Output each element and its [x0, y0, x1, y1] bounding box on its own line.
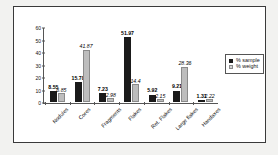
bar-value-label: 28.36 — [178, 61, 191, 66]
bar-weight: 41.87 — [83, 50, 90, 102]
bar-weight: 2.98 — [107, 98, 114, 102]
bar-value-label: 2.22 — [205, 94, 215, 99]
bar-weight: 28.36 — [181, 67, 188, 102]
x-axis-label-cell: Large flakes — [168, 106, 193, 150]
bar-weight: 14.4 — [132, 84, 139, 102]
x-axis-label-cell: Cores — [68, 106, 93, 150]
bar-group: 5.922.15 — [144, 28, 169, 102]
black-square-icon — [229, 59, 233, 63]
x-axis-tick-mark — [144, 102, 145, 105]
x-axis-category-label: Handaxes — [200, 107, 221, 128]
x-axis-label-cell: Fragments — [93, 106, 118, 150]
x-axis-tick-mark — [94, 102, 95, 105]
y-axis-tick-label: 40 — [35, 51, 41, 56]
chart-outer-frame: 0102030405060 8.556.8515.7841.877.232.98… — [13, 6, 266, 143]
x-axis-label-cell: Nodules — [43, 106, 68, 150]
chart-legend: % sample % weight — [225, 54, 264, 74]
bar-value-label: 6.85 — [56, 88, 66, 93]
chart-figure: 0102030405060 8.556.8515.7841.877.232.98… — [0, 0, 278, 155]
plot-area: 0102030405060 8.556.8515.7841.877.232.98… — [43, 28, 218, 104]
x-axis-category-label: Flakes — [127, 107, 142, 122]
bar-sample: 51.97 — [124, 37, 131, 102]
y-axis-tick-label: 30 — [35, 63, 41, 68]
bar-group: 8.556.85 — [45, 28, 70, 102]
bar-value-label: 51.97 — [121, 31, 134, 36]
bar-weight: 6.85 — [58, 93, 65, 102]
bar-group: 7.232.98 — [94, 28, 119, 102]
y-axis-tick-label: 20 — [35, 76, 41, 81]
x-axis-category-labels: NodulesCoresFragmentsFlakesRet. FlakesLa… — [43, 106, 218, 150]
bar-group: 51.9714.4 — [119, 28, 144, 102]
y-axis-tick-label: 10 — [35, 88, 41, 93]
bar-weight: 2.22 — [206, 99, 213, 102]
gray-square-icon — [229, 65, 233, 69]
bar-value-label: 2.15 — [155, 94, 165, 99]
x-axis-tick-mark — [70, 102, 71, 105]
bar-sample: 15.78 — [75, 82, 82, 102]
bar-value-label: 2.98 — [106, 93, 116, 98]
y-axis-tick-label: 60 — [35, 26, 41, 31]
x-axis-label-cell: Flakes — [118, 106, 143, 150]
x-axis-tick-mark — [45, 102, 46, 105]
bar-sample: 1.31 — [198, 100, 205, 102]
bar-group: 1.312.22 — [193, 28, 218, 102]
legend-item-weight: % weight — [229, 64, 260, 69]
bar-group: 15.7841.87 — [70, 28, 95, 102]
bar-group: 9.2128.36 — [169, 28, 194, 102]
y-axis-tick-label: 0 — [38, 101, 41, 106]
x-axis-category-label: Cores — [78, 107, 92, 121]
bar-sample: 9.21 — [173, 91, 180, 103]
x-axis-category-label: Nodules — [51, 107, 69, 125]
x-axis-tick-mark — [169, 102, 170, 105]
x-axis-tick-mark — [193, 102, 194, 105]
bar-value-label: 41.87 — [80, 44, 93, 49]
bar-value-label: 14.4 — [130, 79, 140, 84]
legend-label-weight: % weight — [236, 64, 258, 69]
x-axis-tick-mark — [119, 102, 120, 105]
x-axis-label-cell: Handaxes — [193, 106, 218, 150]
y-axis-tick-label: 50 — [35, 38, 41, 43]
bar-groups: 8.556.8515.7841.877.232.9851.9714.45.922… — [45, 28, 218, 102]
x-axis-label-cell: Ret. Flakes — [143, 106, 168, 150]
bar-weight: 2.15 — [157, 99, 164, 102]
